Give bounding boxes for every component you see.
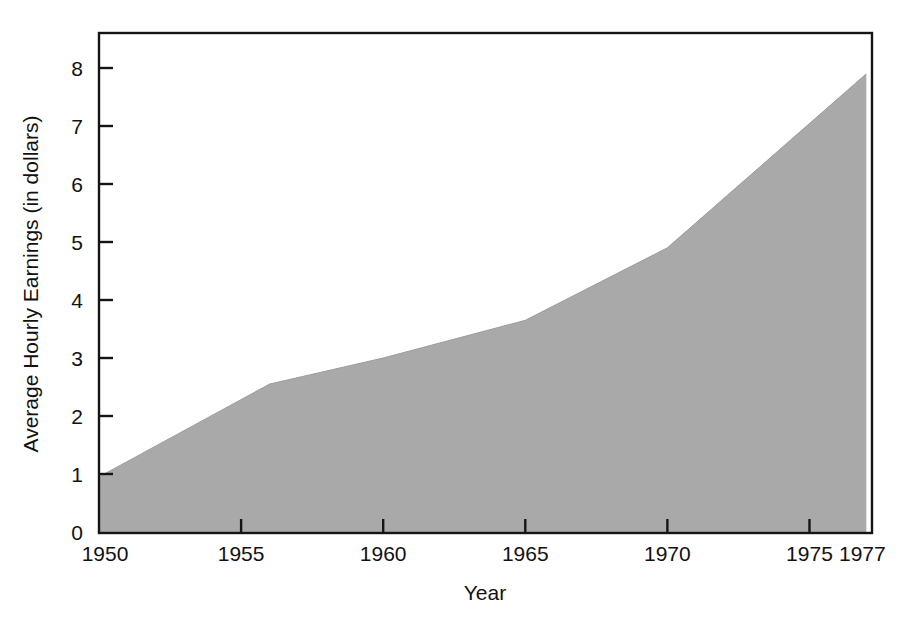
y-tick-label: 7	[71, 115, 83, 138]
chart-figure: 012345678 1950195519601965197019751977 Y…	[0, 0, 910, 619]
y-tick-label: 0	[71, 521, 83, 544]
y-tick-label: 3	[71, 347, 83, 370]
x-tick-label: 1975	[786, 542, 833, 565]
y-tick-label: 2	[71, 405, 83, 428]
x-tick-label: 1955	[218, 542, 265, 565]
y-tick-label: 8	[71, 57, 83, 80]
x-tick-label: 1970	[644, 542, 691, 565]
x-tick-label: 1960	[360, 542, 407, 565]
y-tick-label: 6	[71, 173, 83, 196]
y-axis-tick-labels: 012345678	[71, 57, 83, 544]
y-tick-label: 1	[71, 463, 83, 486]
x-tick-label: 1950	[82, 542, 129, 565]
x-axis-title: Year	[464, 581, 506, 604]
y-axis-title: Average Hourly Earnings (in dollars)	[19, 116, 42, 453]
y-tick-label: 4	[71, 289, 83, 312]
area-chart-svg: 012345678 1950195519601965197019751977 Y…	[0, 0, 910, 619]
x-tick-label: 1965	[502, 542, 549, 565]
x-tick-label: 1977	[839, 542, 886, 565]
y-tick-label: 5	[71, 231, 83, 254]
